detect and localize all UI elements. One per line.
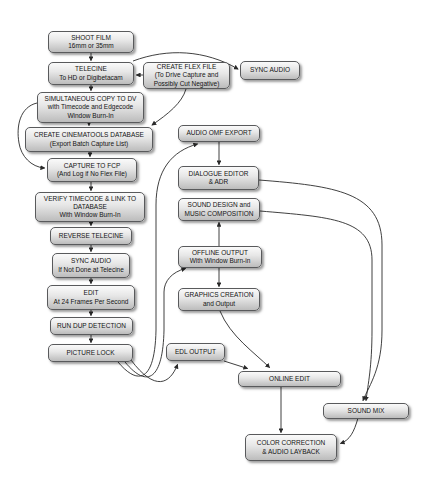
- node-verify-timecode-link-label: DATABASE: [73, 203, 107, 211]
- node-dialogue-editor-adr: DIALOGUE EDITOR& ADR: [178, 166, 259, 190]
- node-create-cinematools-database-label: CREATE CINEMATOOLS DATABASE: [34, 131, 144, 139]
- node-graphics-creation-label: GRAPHICS CREATION: [185, 291, 254, 299]
- node-telecine-label: To HD or Digibetacam: [59, 74, 123, 82]
- edge-picture-lock-to-edl-output: [131, 360, 178, 382]
- node-simultaneous-copy-to-dv-label: with Timecode and Edgecode: [48, 103, 133, 111]
- node-run-dup-detection-label: RUN DUP DETECTION: [57, 322, 126, 330]
- node-sync-audio-if-not-done-label: If Not Done at Telecine: [58, 266, 124, 274]
- node-run-dup-detection: RUN DUP DETECTION: [50, 317, 133, 335]
- node-sound-design-music-label: MUSIC COMPOSITION: [185, 210, 254, 218]
- node-verify-timecode-link-label: VERIFY TIMECODE & LINK TO: [44, 195, 136, 203]
- node-color-correction-audio-layback-label: COLOR CORRECTION: [257, 439, 326, 447]
- node-edit-24fps-label: EDIT: [84, 289, 99, 297]
- node-sync-audio-if-not-done: SYNC AUDIOIf Not Done at Telecine: [52, 253, 130, 278]
- node-offline-output-label: With Window Burn-in: [190, 257, 251, 265]
- node-create-flex-file: CREATE FLEX FILE(To Drive Capture andPos…: [143, 62, 230, 89]
- node-sound-mix: SOUND MIX: [323, 403, 409, 419]
- node-edl-output-label: EDL OUTPUT: [175, 348, 216, 356]
- node-create-cinematools-database-label: (Export Batch Capture List): [50, 140, 128, 148]
- node-simultaneous-copy-to-dv: SIMULTANEOUS COPY TO DVwith Timecode and…: [37, 92, 144, 123]
- node-edit-24fps-label: At 24 Frames Per Second: [54, 298, 129, 306]
- node-graphics-creation: GRAPHICS CREATIONand Output: [178, 288, 260, 311]
- node-reverse-telecine: REVERSE TELECINE: [50, 227, 132, 245]
- flowchart: SHOOT FILM16mm or 35mmTELECINETo HD or D…: [0, 0, 431, 487]
- node-audio-omf-export: AUDIO OMF EXPORT: [178, 125, 260, 142]
- node-sync-audio: SYNC AUDIO: [240, 61, 300, 80]
- node-online-edit: ONLINE EDIT: [238, 371, 341, 387]
- node-create-flex-file-label: (To Drive Capture and: [155, 71, 219, 79]
- node-verify-timecode-link: VERIFY TIMECODE & LINK TODATABASEWith Wi…: [35, 192, 145, 222]
- node-audio-omf-export-label: AUDIO OMF EXPORT: [186, 129, 251, 137]
- node-simultaneous-copy-to-dv-label: Window Burn-In: [67, 112, 113, 120]
- edge-graphics-creation-to-online-edit: [220, 311, 270, 368]
- node-offline-output: OFFLINE OUTPUTWith Window Burn-in: [178, 246, 262, 268]
- node-shoot-film: SHOOT FILM16mm or 35mm: [48, 31, 134, 53]
- node-edl-output: EDL OUTPUT: [166, 343, 225, 361]
- node-online-edit-label: ONLINE EDIT: [269, 375, 310, 383]
- node-offline-output-label: OFFLINE OUTPUT: [192, 249, 248, 257]
- node-shoot-film-label: 16mm or 35mm: [68, 42, 114, 50]
- node-simultaneous-copy-to-dv-label: SIMULTANEOUS COPY TO DV: [45, 95, 137, 103]
- edge-edl-output-to-online-edit: [224, 361, 248, 369]
- node-shoot-film-label: SHOOT FILM: [71, 34, 111, 42]
- node-sync-audio-if-not-done-label: SYNC AUDIO: [71, 257, 111, 265]
- node-dialogue-editor-adr-label: DIALOGUE EDITOR: [189, 170, 249, 178]
- node-create-flex-file-label: CREATE FLEX FILE: [157, 63, 216, 71]
- node-sync-audio-label: SYNC AUDIO: [250, 66, 290, 74]
- node-telecine-label: TELECINE: [75, 65, 107, 73]
- node-dialogue-editor-adr-label: & ADR: [209, 178, 229, 186]
- node-sound-design-music: SOUND DESIGN andMUSIC COMPOSITION: [178, 198, 260, 221]
- node-telecine: TELECINETo HD or Digibetacam: [48, 62, 134, 85]
- node-capture-to-fcp-label: (And Log if No Flex File): [57, 170, 127, 178]
- node-edit-24fps: EDITAt 24 Frames Per Second: [47, 285, 135, 310]
- node-verify-timecode-link-label: With Window Burn-In: [59, 211, 120, 219]
- node-create-flex-file-label: Possibly Cut Negative): [154, 80, 220, 88]
- node-sound-design-music-label: SOUND DESIGN and: [188, 201, 251, 209]
- node-reverse-telecine-label: REVERSE TELECINE: [59, 232, 124, 240]
- edge-sound-mix-to-color-correction-audio-layback: [341, 418, 359, 444]
- node-color-correction-audio-layback: COLOR CORRECTION& AUDIO LAYBACK: [245, 434, 337, 461]
- node-capture-to-fcp-label: CAPTURE TO FCP: [64, 162, 120, 170]
- node-picture-lock-label: PICTURE LOCK: [66, 349, 114, 357]
- node-picture-lock: PICTURE LOCK: [48, 344, 133, 362]
- node-sound-mix-label: SOUND MIX: [348, 407, 385, 415]
- node-graphics-creation-label: and Output: [203, 300, 235, 308]
- node-capture-to-fcp: CAPTURE TO FCP(And Log if No Flex File): [47, 158, 137, 182]
- node-color-correction-audio-layback-label: & AUDIO LAYBACK: [262, 448, 320, 456]
- edge-dialogue-editor-adr-to-sound-mix: [259, 180, 382, 401]
- edge-create-flex-file-to-create-cinematools-database: [152, 89, 186, 125]
- node-create-cinematools-database: CREATE CINEMATOOLS DATABASE(Export Batch…: [25, 127, 153, 152]
